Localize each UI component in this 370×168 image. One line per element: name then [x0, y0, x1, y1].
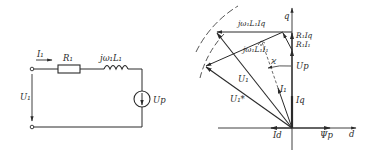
equivalent-circuit: I₁ R₁ jω₁L₁ U₁ Up	[20, 49, 166, 129]
label-jwl1iq: jω₁L₁Iq	[236, 19, 265, 28]
label-jwl1: jω₁L₁	[98, 53, 122, 63]
label-r1i1: R₁I₁	[295, 40, 311, 49]
label-u1: U₁	[20, 92, 31, 102]
label-r1iq: R₁Iq	[295, 31, 313, 40]
vector-r1i1	[283, 33, 292, 50]
inductor-l1	[104, 66, 128, 70]
angle-arc	[268, 66, 291, 68]
vector-u1-star	[206, 67, 292, 128]
resistor-r1	[58, 65, 80, 73]
label-iq: Iq	[295, 95, 305, 105]
label-r1: R₁	[62, 53, 73, 63]
vector-i1	[278, 88, 292, 128]
label-id: Id	[272, 130, 282, 140]
label-q-axis: q	[284, 11, 290, 21]
label-up-vector: Up	[296, 61, 309, 71]
terminal-top	[30, 67, 34, 71]
label-psip: Ψp	[320, 130, 333, 140]
label-i1-vector: I₁	[279, 84, 287, 94]
arc-outer	[196, 6, 238, 52]
phasor-diagram: q d jω₁L₁Iq jω₁L₁I₁ R₁Iq R₁I₁ ϰ Up U₁ U₁…	[196, 6, 356, 150]
label-jwl1i1: jω₁L₁I₁	[241, 45, 268, 54]
diagram-canvas: I₁ R₁ jω₁L₁ U₁ Up	[0, 0, 370, 168]
label-up: Up	[153, 95, 166, 105]
label-u1-star: U₁*	[230, 94, 246, 104]
terminal-bottom	[30, 125, 34, 129]
label-angle: ϰ	[270, 56, 277, 66]
label-d-axis: d	[349, 129, 355, 139]
label-u1-vector: U₁	[238, 74, 249, 84]
label-i1: I₁	[36, 49, 44, 59]
